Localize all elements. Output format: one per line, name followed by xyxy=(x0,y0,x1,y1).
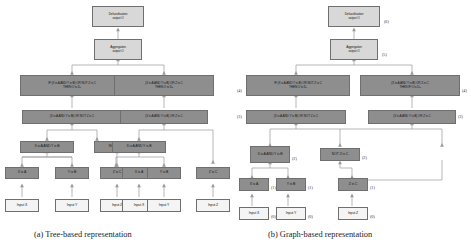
node-z-is-c-right[interactable]: Z is C xyxy=(196,167,230,179)
caption-graph: (b) Graph-based representation xyxy=(268,230,372,239)
node-expression-or-not[interactable]: (X is A AND Y is B) OR NOT Z is C xyxy=(22,110,122,124)
depth-tag-3-right: (3) xyxy=(458,114,463,119)
rule2-line2: THEN O is D xyxy=(155,85,172,89)
z-is-c-label: Z is C xyxy=(113,171,122,175)
depth-tag-0-y: (0) xyxy=(308,214,313,219)
depth-tag-2-not: (2) xyxy=(362,155,367,160)
depth-tag-6: (6) xyxy=(384,19,389,24)
graph-rule1-subscript: 1 xyxy=(306,86,307,88)
graph-x-is-a-label: X is A xyxy=(250,183,258,187)
node-input-x-left[interactable]: Input X xyxy=(5,199,39,212)
graph-node-input-z[interactable]: Input Z xyxy=(338,207,368,220)
graph-node-input-y[interactable]: Input Y xyxy=(276,207,306,220)
input-y-label: Input Y xyxy=(67,204,77,208)
node-input-y-left[interactable]: Input Y xyxy=(55,199,89,212)
input-z-right-label: Input Z xyxy=(208,204,218,208)
input-y-right-label: Input Y xyxy=(159,204,169,208)
y-is-b-label: Y is B xyxy=(68,171,76,175)
and-xy-right-label: X is A AND Y is B xyxy=(126,145,151,149)
graph-node-defuzzification[interactable]: Defuzzification output O xyxy=(328,6,380,27)
graph-node-z-is-c[interactable]: Z is C xyxy=(338,178,368,191)
graph-defuzzification-line2: output O xyxy=(348,16,359,20)
node-input-y-right[interactable]: Input Y xyxy=(147,199,181,212)
graph-node-x-is-a[interactable]: X is A xyxy=(239,178,269,191)
depth-tag-3-left: (3) xyxy=(237,114,242,119)
input-x-label: Input X xyxy=(17,204,27,208)
graph-node-aggregation[interactable]: Aggregation output O xyxy=(330,39,378,60)
graph-z-is-c-label: Z is C xyxy=(349,183,358,187)
graph-y-is-b-label: Y is B xyxy=(287,183,295,187)
graph-and-xy-label: X is A AND Y is B xyxy=(257,153,282,157)
node-input-z-right[interactable]: Input Z xyxy=(196,199,230,212)
graph-input-y-label: Input Y xyxy=(286,212,296,216)
rule1-line2: THEN O is D xyxy=(63,85,80,89)
depth-tag-1-z: (1) xyxy=(370,185,375,190)
node-y-is-b-left[interactable]: Y is B xyxy=(55,167,89,179)
graph-node-expression-or[interactable]: (X is A AND Y is B) OR Z is C xyxy=(368,110,456,124)
depth-tag-5: (5) xyxy=(382,52,387,57)
graph-input-z-label: Input Z xyxy=(348,212,358,216)
expression-or-label: (X is A AND Y is B) OR Z is C xyxy=(145,115,182,118)
depth-tag-2-and: (2) xyxy=(292,156,297,161)
aggregation-line2: output O xyxy=(112,49,123,53)
graph-rule2-subscript: 2 xyxy=(419,86,420,88)
graph-aggregation-line2: output O xyxy=(348,49,359,53)
z-is-c-right-label: Z is C xyxy=(209,171,218,175)
graph-not-z-label: NOT Z is C xyxy=(332,153,348,157)
graph-expression-or-not-label: (X is A AND Y is B) OR NOT Z is C xyxy=(274,115,318,118)
defuzzification-line2: output O xyxy=(112,16,123,20)
x-is-a-right-label: X is A xyxy=(135,171,143,175)
and-xy-label: X is A AND Y is B xyxy=(34,145,59,149)
depth-tag-0-z: (0) xyxy=(370,214,375,219)
graph-representation-panel: Defuzzification output O (6) Aggregation… xyxy=(236,0,471,225)
graph-node-rule-2[interactable]: (X is A AND Y is B) OR Z is C THEN IF O … xyxy=(360,75,460,96)
rule2-subscript: 2 xyxy=(172,86,173,88)
node-x-is-a-left[interactable]: X is A xyxy=(5,167,39,179)
figure-root: Defuzzification output O Aggregation out… xyxy=(0,0,471,249)
node-rule-2[interactable]: (X is A AND Y is B) OR Z is C THEN O is … xyxy=(114,75,214,96)
x-is-a-label: X is A xyxy=(18,171,26,175)
graph-node-not-z[interactable]: NOT Z is C xyxy=(320,148,360,161)
node-rule-1[interactable]: IF (X is A AND Y is B) OR NOT Z is C THE… xyxy=(20,75,124,96)
depth-tag-4-left: (4) xyxy=(237,88,242,93)
graph-node-rule-1[interactable]: IF (X is A AND Y is B) OR NOT Z is C THE… xyxy=(246,75,350,96)
node-expression-or[interactable]: (X is A AND Y is B) OR Z is C xyxy=(120,110,208,124)
input-x-right-label: Input X xyxy=(134,204,144,208)
y-is-b-right-label: Y is B xyxy=(160,171,168,175)
depth-tag-4-right: (4) xyxy=(462,88,467,93)
node-and-xy-left[interactable]: X is A AND Y is B xyxy=(20,141,74,153)
graph-node-input-x[interactable]: Input X xyxy=(239,207,269,220)
caption-tree: (a) Tree-based representation xyxy=(34,230,132,239)
graph-node-expression-or-not[interactable]: (X is A AND Y is B) OR NOT Z is C xyxy=(246,110,346,124)
graph-node-y-is-b[interactable]: Y is B xyxy=(276,178,306,191)
depth-tag-1-y: (1) xyxy=(308,185,313,190)
graph-input-x-label: Input X xyxy=(249,212,259,216)
node-defuzzification[interactable]: Defuzzification output O xyxy=(92,6,144,27)
rule1-subscript: 1 xyxy=(80,86,81,88)
graph-node-and-xy[interactable]: X is A AND Y is B xyxy=(250,146,290,163)
graph-rule2-line2: THEN IF O is D xyxy=(399,85,419,89)
tree-representation-panel: Defuzzification output O Aggregation out… xyxy=(0,0,236,225)
node-and-xy-right[interactable]: X is A AND Y is B xyxy=(112,141,166,153)
expression-or-not-label: (X is A AND Y is B) OR NOT Z is C xyxy=(50,115,94,118)
graph-rule1-line2: THEN O is D xyxy=(289,85,306,89)
input-z-label: Input Z xyxy=(112,204,122,208)
node-aggregation[interactable]: Aggregation output O xyxy=(94,39,142,60)
graph-expression-or-label: (X is A AND Y is B) OR Z is C xyxy=(393,115,430,118)
node-y-is-b-right[interactable]: Y is B xyxy=(147,167,181,179)
